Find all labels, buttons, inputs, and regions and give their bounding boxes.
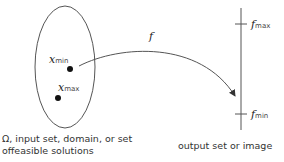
f-min-label: fmin xyxy=(251,108,268,121)
domain-ellipse xyxy=(35,6,95,128)
domain-caption-line2: offeasible solutions xyxy=(2,145,94,156)
domain-caption-line1: Ω, input set, domain, or set xyxy=(2,133,132,144)
mapping-label: f xyxy=(149,30,153,43)
x-min-point xyxy=(67,66,73,72)
x-max-point xyxy=(55,95,61,101)
x-max-label: xmax xyxy=(58,81,79,94)
f-max-label: fmax xyxy=(251,18,270,31)
mapping-arrow xyxy=(79,51,235,96)
x-min-label: xmin xyxy=(49,53,68,66)
output-caption: output set or image xyxy=(178,140,272,151)
